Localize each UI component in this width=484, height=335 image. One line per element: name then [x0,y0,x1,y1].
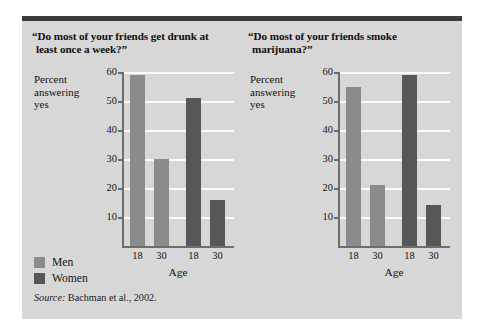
y-tick-label-60: 60 [95,66,117,77]
y-tick-mark-50 [334,101,339,103]
y-tick-label-20: 20 [311,182,333,193]
y-tick-label-40: 40 [311,124,333,135]
x-tick-label-drunk-3: 30 [207,250,229,261]
chart-title-line1: “Do most of your friends smoke [248,30,397,42]
x-axis-title-marijuana: Age [338,266,450,278]
y-tick-mark-10 [118,217,123,219]
source-text: Bachman et al., 2002. [65,292,156,303]
chart-panel-marijuana: “Do most of your friends smoke marijuana… [244,30,458,300]
y-axis-caption-line3: yes [34,98,100,111]
y-tick-mark-50 [118,101,123,103]
y-axis-caption-drunk: Percent answering yes [34,73,100,111]
legend-swatch-women-icon [34,273,45,284]
top-rule-divider [22,16,462,21]
y-tick-mark-20 [334,188,339,190]
y-tick-mark-60 [334,72,339,74]
y-tick-mark-10 [334,217,339,219]
x-axis-line [338,246,450,248]
bar-drunk-women-30 [210,200,225,246]
y-axis-caption-line2: answering [34,86,100,99]
y-tick-mark-30 [118,159,123,161]
chart-title-drunk: “Do most of your friends get drunk at le… [32,30,238,56]
bars-drunk [124,72,234,246]
x-tick-label-drunk-2: 18 [183,250,205,261]
plot-area-drunk: 605040302010 18301830 Age [100,72,234,248]
y-axis-caption-line2: answering [250,86,316,99]
x-tick-label-marijuana-0: 18 [343,250,365,261]
chart-title-line1: “Do most of your friends get drunk at [32,30,209,42]
legend: MenWomen [34,254,154,286]
source-note: Source: Bachman et al., 2002. [34,292,157,303]
y-axis-caption-line3: yes [250,98,316,111]
bar-marijuana-men-18 [346,87,361,247]
x-axis-line [122,246,234,248]
figure-panel: “Do most of your friends get drunk at le… [22,16,462,319]
y-tick-label-30: 30 [311,153,333,164]
y-tick-mark-60 [118,72,123,74]
legend-label-men: Men [52,256,73,269]
legend-item-women: Women [34,270,154,286]
y-tick-label-10: 10 [95,211,117,222]
y-tick-mark-30 [334,159,339,161]
y-tick-label-50: 50 [311,95,333,106]
bar-marijuana-men-30 [370,185,385,246]
y-tick-mark-40 [118,130,123,132]
bar-drunk-men-30 [154,159,169,246]
x-tick-label-marijuana-1: 30 [367,250,389,261]
bar-drunk-women-18 [186,98,201,246]
y-tick-label-40: 40 [95,124,117,135]
source-prefix: Source: [34,292,65,303]
chart-title-marijuana: “Do most of your friends smoke marijuana… [248,30,454,56]
bar-marijuana-women-18 [402,75,417,246]
legend-item-men: Men [34,254,154,270]
bars-marijuana [340,72,450,246]
y-tick-mark-40 [334,130,339,132]
y-tick-label-30: 30 [95,153,117,164]
x-tick-label-marijuana-3: 30 [423,250,445,261]
y-axis-caption-line1: Percent [34,73,100,86]
y-axis-caption-line1: Percent [250,73,316,86]
y-tick-label-10: 10 [311,211,333,222]
chart-title-line2: marijuana?” [248,43,454,56]
legend-swatch-men-icon [34,257,45,268]
plot-area-marijuana: 605040302010 18301830 Age [316,72,450,248]
bar-drunk-men-18 [130,75,145,246]
chart-title-line2: least once a week?” [32,43,238,56]
y-tick-mark-20 [118,188,123,190]
y-axis-caption-marijuana: Percent answering yes [250,73,316,111]
bar-marijuana-women-30 [426,205,441,246]
legend-label-women: Women [52,272,88,285]
y-tick-label-50: 50 [95,95,117,106]
y-tick-label-60: 60 [311,66,333,77]
x-tick-label-marijuana-2: 18 [399,250,421,261]
y-tick-label-20: 20 [95,182,117,193]
